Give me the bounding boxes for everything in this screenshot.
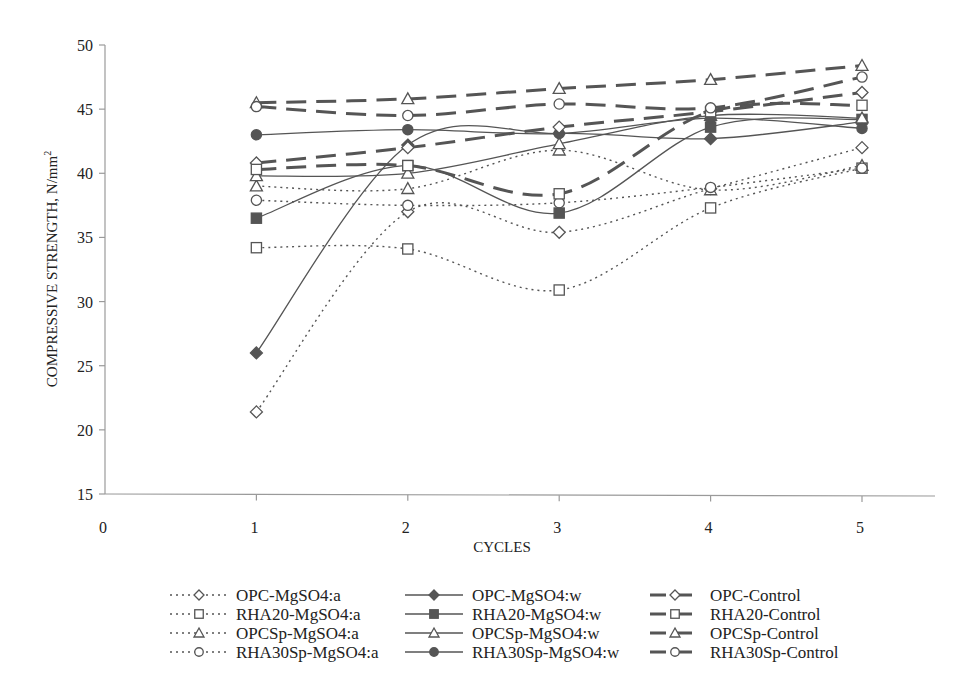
- y-tick-label: 45: [77, 101, 93, 118]
- legend-label: OPC-Control: [710, 586, 801, 605]
- x-ticks: 012345: [99, 494, 864, 536]
- data-point-rha20-mgso4-w: [251, 213, 261, 223]
- legend: OPC-MgSO4:aRHA20-MgSO4:aOPCSp-MgSO4:aRHA…: [170, 586, 839, 662]
- series-points-opcsp-mgso4-a: [250, 144, 868, 195]
- legend-item-opcsp-control: OPCSp-Control: [650, 624, 819, 643]
- legend-marker-circle-icon: [430, 648, 439, 657]
- legend-item-rha30sp-control: RHA30Sp-Control: [650, 643, 839, 662]
- data-point-rha30sp-mgso4-a: [706, 182, 716, 192]
- legend-marker-square-icon: [430, 610, 439, 619]
- legend-item-rha30sp-mgso4-a: RHA30Sp-MgSO4:a: [170, 643, 379, 662]
- data-point-rha30sp-control: [706, 103, 716, 113]
- x-tick-label: 0: [99, 519, 107, 536]
- data-point-rha20-control: [403, 160, 413, 170]
- legend-label: OPCSp-MgSO4:a: [236, 624, 359, 643]
- y-tick-label: 25: [77, 358, 93, 375]
- x-tick-label: 4: [705, 519, 713, 536]
- data-point-rha30sp-control: [251, 101, 261, 111]
- series-points-rha30sp-mgso4-a: [251, 163, 867, 210]
- data-point-opc-mgso4-a: [856, 142, 868, 154]
- legend-item-rha30sp-mgso4-w: RHA30Sp-MgSO4:w: [405, 643, 620, 662]
- data-point-opc-mgso4-w: [250, 347, 262, 359]
- x-axis-line: [105, 494, 935, 496]
- legend-item-opc-control: OPC-Control: [650, 586, 801, 605]
- series-markers: [250, 60, 868, 418]
- data-point-opc-control: [856, 86, 868, 98]
- data-point-rha30sp-mgso4-a: [403, 200, 413, 210]
- legend-item-rha20-mgso4-w: RHA20-MgSO4:w: [405, 605, 602, 624]
- y-ticks: 1520253035404550: [77, 37, 105, 503]
- y-axis-title-main: COMPRESSIVE STRENGTH, N/mm: [44, 156, 60, 388]
- legend-item-rha20-control: RHA20-Control: [650, 605, 821, 624]
- data-point-rha30sp-control: [857, 72, 867, 82]
- data-point-rha20-control: [251, 164, 261, 174]
- legend-label: OPC-MgSO4:w: [472, 586, 582, 605]
- legend-label: RHA30Sp-MgSO4:a: [236, 643, 379, 662]
- legend-label: RHA30Sp-Control: [710, 643, 839, 662]
- legend-marker-diamond-icon: [194, 590, 204, 600]
- y-tick-label: 50: [77, 37, 93, 54]
- x-tick-label: 5: [856, 519, 864, 536]
- y-axis-title: COMPRESSIVE STRENGTH, N/mm2: [42, 151, 60, 387]
- series-line-opcsp-mgso4-a: [256, 150, 862, 191]
- data-point-rha30sp-mgso4-w: [857, 123, 867, 133]
- x-axis-title: CYCLES: [473, 539, 531, 555]
- legend-marker-circle-icon: [195, 648, 204, 657]
- legend-label: RHA30Sp-MgSO4:w: [472, 643, 620, 662]
- legend-label: OPCSp-MgSO4:w: [472, 624, 600, 643]
- axes: [105, 45, 935, 496]
- legend-item-opc-mgso4-w: OPC-MgSO4:w: [405, 586, 582, 605]
- legend-label: RHA20-Control: [710, 605, 821, 624]
- x-tick-label: 2: [402, 519, 410, 536]
- data-point-rha30sp-mgso4-a: [251, 195, 261, 205]
- series-line-opc-mgso4-a: [256, 148, 862, 412]
- legend-marker-diamond-icon: [429, 590, 439, 600]
- data-point-rha30sp-mgso4-a: [857, 163, 867, 173]
- data-point-opcsp-mgso4-a: [250, 180, 262, 191]
- y-tick-label: 35: [77, 229, 93, 246]
- y-tick-label: 15: [77, 486, 93, 503]
- y-tick-label: 30: [77, 294, 93, 311]
- y-tick-label: 20: [77, 422, 93, 439]
- data-point-rha20-mgso4-a: [706, 203, 716, 213]
- data-point-rha20-mgso4-w: [554, 208, 564, 218]
- legend-label: RHA20-MgSO4:a: [236, 605, 361, 624]
- data-point-opc-mgso4-a: [250, 406, 262, 418]
- data-point-opc-mgso4-a: [553, 226, 565, 238]
- x-tick-label: 3: [553, 519, 561, 536]
- data-point-rha30sp-mgso4-w: [403, 125, 413, 135]
- series-points-opc-mgso4-a: [250, 142, 868, 418]
- data-point-opc-mgso4-w: [705, 133, 717, 145]
- legend-marker-diamond-icon: [670, 590, 680, 600]
- data-point-rha30sp-mgso4-w: [251, 130, 261, 140]
- legend-label: RHA20-MgSO4:w: [472, 605, 602, 624]
- data-point-rha20-mgso4-a: [403, 244, 413, 254]
- data-point-opcsp-mgso4-a: [402, 183, 414, 194]
- x-tick-label: 1: [250, 519, 258, 536]
- data-point-rha30sp-control: [554, 99, 564, 109]
- y-tick-label: 40: [77, 165, 93, 182]
- legend-marker-square-icon: [671, 610, 680, 619]
- legend-marker-square-icon: [195, 610, 204, 619]
- legend-label: OPCSp-Control: [710, 624, 819, 643]
- legend-item-opcsp-mgso4-a: OPCSp-MgSO4:a: [170, 624, 359, 643]
- line-chart: 1520253035404550 012345 CYCLES COMPRESSI…: [0, 0, 954, 691]
- data-point-rha20-mgso4-a: [554, 285, 564, 295]
- data-point-rha30sp-control: [403, 110, 413, 120]
- data-point-rha20-control: [554, 189, 564, 199]
- legend-item-opcsp-mgso4-w: OPCSp-MgSO4:w: [405, 624, 600, 643]
- data-point-rha20-mgso4-a: [251, 243, 261, 253]
- legend-marker-circle-icon: [671, 648, 680, 657]
- legend-item-opc-mgso4-a: OPC-MgSO4:a: [170, 586, 341, 605]
- data-point-rha20-control: [857, 100, 867, 110]
- legend-item-rha20-mgso4-a: RHA20-MgSO4:a: [170, 605, 361, 624]
- legend-label: OPC-MgSO4:a: [236, 586, 341, 605]
- y-axis-title-superscript: 2: [42, 151, 53, 156]
